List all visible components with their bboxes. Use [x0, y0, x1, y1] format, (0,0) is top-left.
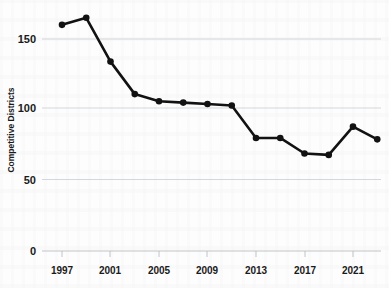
x-tick-labels: 1997 2001 2005 2009 2013 2017 2021 — [51, 265, 365, 276]
x-tick-label-2021: 2021 — [342, 265, 365, 276]
data-point — [350, 123, 357, 130]
x-tick-label-2009: 2009 — [196, 265, 219, 276]
data-series-competitive-districts — [59, 14, 381, 158]
y-tick-label-50: 50 — [24, 174, 36, 186]
data-point — [301, 150, 308, 157]
x-tick-label-1997: 1997 — [51, 265, 74, 276]
data-point — [83, 14, 90, 21]
data-point — [228, 102, 235, 109]
x-axis — [42, 251, 381, 257]
data-point — [253, 135, 260, 142]
gridlines — [42, 39, 381, 180]
line-chart-plot: Competitive Districts 150 100 50 0 — [0, 0, 389, 288]
x-tick-label-2013: 2013 — [245, 265, 268, 276]
data-point — [277, 135, 284, 142]
data-point — [180, 99, 187, 106]
data-point — [156, 98, 163, 105]
y-tick-label-100: 100 — [18, 102, 36, 114]
series-markers-group — [59, 14, 381, 158]
chart-container: Competitive Districts 150 100 50 0 — [0, 0, 389, 288]
x-tick-label-2005: 2005 — [148, 265, 171, 276]
x-tick-label-2017: 2017 — [294, 265, 317, 276]
data-point — [131, 91, 138, 98]
data-point — [107, 58, 114, 65]
data-point — [374, 136, 381, 143]
y-tick-label-0: 0 — [30, 245, 36, 257]
data-point — [325, 152, 332, 159]
data-point — [204, 101, 211, 108]
data-point — [59, 22, 66, 29]
y-tick-label-150: 150 — [18, 33, 36, 45]
y-axis-label-text: Competitive Districts — [6, 87, 16, 172]
y-tick-labels: 150 100 50 0 — [18, 33, 36, 257]
series-line — [62, 18, 377, 155]
y-axis-label: Competitive Districts — [6, 87, 16, 172]
x-tick-label-2001: 2001 — [99, 265, 122, 276]
